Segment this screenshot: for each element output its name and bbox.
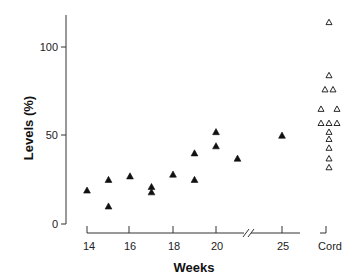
x-tick-16: 16 bbox=[124, 240, 136, 252]
filled-triangle-marker bbox=[213, 129, 220, 135]
y-axis-title: Levels (%) bbox=[21, 96, 36, 160]
open-triangle-marker bbox=[326, 164, 332, 169]
open-triangle-marker bbox=[326, 136, 332, 141]
open-triangle-marker bbox=[318, 106, 324, 111]
filled-triangle-marker bbox=[127, 173, 134, 179]
x-tick-18: 18 bbox=[168, 240, 180, 252]
open-triangle-marker bbox=[322, 86, 328, 91]
y-tick-0: 0 bbox=[52, 218, 58, 230]
open-triangle-marker bbox=[326, 120, 332, 125]
cord-series bbox=[318, 19, 340, 170]
open-triangle-marker bbox=[326, 145, 332, 150]
filled-triangle-marker bbox=[191, 150, 198, 156]
open-triangle-marker bbox=[326, 156, 332, 161]
open-triangle-marker bbox=[334, 120, 340, 125]
filled-triangle-marker bbox=[279, 132, 286, 138]
open-triangle-marker bbox=[326, 72, 332, 77]
y-tick-100: 100 bbox=[40, 41, 58, 53]
open-triangle-marker bbox=[326, 129, 332, 134]
filled-triangle-marker bbox=[191, 176, 198, 182]
open-triangle-marker bbox=[334, 106, 340, 111]
filled-triangle-marker bbox=[84, 187, 91, 193]
scatter-chart: 0 50 100 Levels (%) 14 16 18 20 25 Cord … bbox=[0, 0, 359, 280]
y-tick-50: 50 bbox=[46, 129, 58, 141]
open-triangle-marker bbox=[318, 120, 324, 125]
x-tick-cord: Cord bbox=[318, 240, 342, 252]
x-axis: 14 16 18 20 25 Cord Weeks bbox=[83, 226, 342, 275]
filled-triangle-marker bbox=[234, 155, 241, 161]
x-axis-title: Weeks bbox=[174, 260, 215, 275]
filled-triangle-marker bbox=[213, 143, 220, 149]
x-tick-20: 20 bbox=[211, 240, 223, 252]
filled-triangle-marker bbox=[105, 176, 112, 182]
filled-triangle-marker bbox=[170, 171, 177, 177]
fetal-series bbox=[84, 129, 286, 209]
filled-triangle-marker bbox=[105, 203, 112, 209]
y-axis: 0 50 100 Levels (%) bbox=[21, 15, 66, 230]
x-tick-14: 14 bbox=[83, 240, 95, 252]
open-triangle-marker bbox=[330, 86, 336, 91]
x-tick-25: 25 bbox=[277, 240, 289, 252]
open-triangle-marker bbox=[326, 19, 332, 24]
